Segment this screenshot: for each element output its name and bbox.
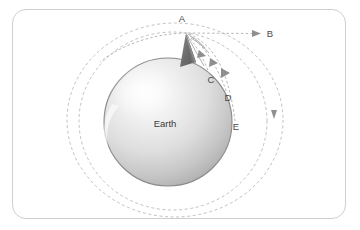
label-point-d: D	[225, 92, 232, 103]
arrow-trajectory-d-icon	[209, 58, 218, 67]
arrow-to-b-icon	[252, 30, 261, 37]
figure-root: A B C D E Earth	[0, 0, 360, 230]
label-point-e: E	[233, 121, 239, 132]
ray-a-to-b	[188, 33, 252, 34]
label-point-a: A	[179, 13, 186, 24]
orbit-direction-arrow-icon	[271, 110, 277, 119]
label-point-c: C	[208, 74, 215, 85]
newton-cannonball-diagram: A B C D E Earth	[0, 0, 360, 230]
ray-a-leftward	[100, 33, 186, 62]
label-point-b: B	[267, 28, 273, 39]
label-earth: Earth	[154, 118, 177, 129]
earth-highlight	[109, 65, 175, 119]
